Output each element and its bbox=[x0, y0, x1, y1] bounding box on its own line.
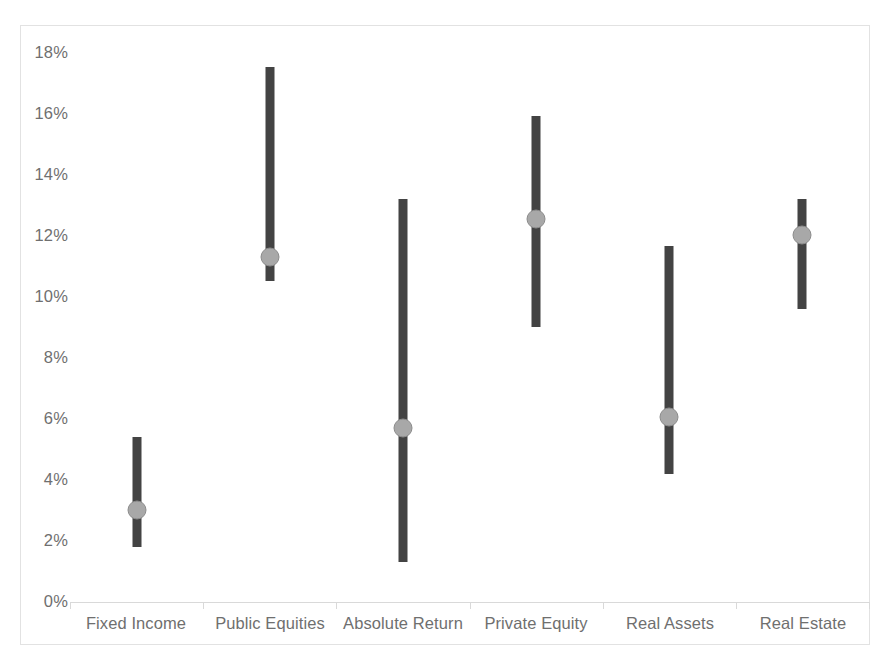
median-marker bbox=[527, 209, 546, 228]
median-marker bbox=[793, 226, 812, 245]
x-tick-label-absolute-return: Absolute Return bbox=[343, 614, 463, 633]
x-axis-tick bbox=[203, 602, 204, 609]
x-axis-tick bbox=[70, 602, 71, 609]
median-marker bbox=[260, 247, 279, 266]
range-bar bbox=[798, 199, 807, 309]
x-tick-label-real-estate: Real Estate bbox=[760, 614, 846, 633]
x-axis-tick bbox=[470, 602, 471, 609]
chart-frame bbox=[20, 25, 870, 645]
x-axis-tick bbox=[603, 602, 604, 609]
x-tick-label-private-equity: Private Equity bbox=[484, 614, 587, 633]
range-bar bbox=[665, 246, 674, 474]
x-axis-tick bbox=[336, 602, 337, 609]
x-tick-label-public-equities: Public Equities bbox=[215, 614, 325, 633]
range-bar bbox=[398, 199, 407, 563]
x-axis-tick bbox=[869, 602, 870, 609]
x-tick-label-real-assets: Real Assets bbox=[626, 614, 714, 633]
chart-container: 18% 16% 14% 12% 10% 8% 6% 4% 2% 0% Fixed… bbox=[0, 0, 893, 670]
median-marker bbox=[660, 408, 679, 427]
x-tick-label-fixed-income: Fixed Income bbox=[86, 614, 186, 633]
median-marker bbox=[393, 418, 412, 437]
x-axis-tick bbox=[736, 602, 737, 609]
median-marker bbox=[127, 501, 146, 520]
range-bar bbox=[132, 437, 141, 547]
